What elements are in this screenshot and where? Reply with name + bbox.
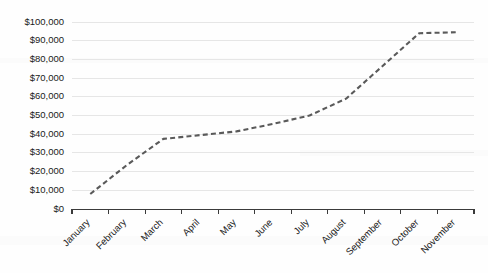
y-axis-tick-label: $10,000 [30,184,64,195]
y-axis-tick-label: $40,000 [30,128,64,139]
y-axis-tick-label: $90,000 [30,34,64,45]
line-chart: $0$10,000$20,000$30,000$40,000$50,000$60… [0,0,488,273]
y-axis-tick-label: $30,000 [30,146,64,157]
y-axis-tick-label: $100,000 [24,16,64,27]
chart-container: $0$10,000$20,000$30,000$40,000$50,000$60… [0,0,488,273]
y-axis-tick-label: $20,000 [30,165,64,176]
y-axis-tick-label: $50,000 [30,109,64,120]
y-axis-tick-label: $0 [53,203,64,214]
y-axis-tick-label: $70,000 [30,72,64,83]
y-axis-tick-label: $80,000 [30,53,64,64]
y-axis-tick-labels: $0$10,000$20,000$30,000$40,000$50,000$60… [24,16,64,214]
y-axis-tick-label: $60,000 [30,90,64,101]
